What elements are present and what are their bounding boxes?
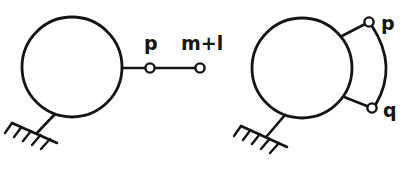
diagram-figure: p m+l	[0, 0, 414, 184]
diagram-canvas: p m+l	[0, 0, 414, 184]
joint-m-plus-l	[195, 63, 204, 72]
main-body-circle-left	[22, 17, 122, 117]
left-diagram: p m+l	[5, 17, 223, 149]
main-body-circle-right	[252, 18, 352, 118]
joint-p-right	[364, 17, 373, 26]
right-diagram: p q	[234, 12, 397, 153]
joint-q-label-right: q	[383, 99, 397, 121]
ground-support-left	[5, 114, 57, 149]
ground-support-right	[234, 115, 287, 153]
arc-link-p-to-q	[372, 26, 386, 104]
joint-p-label-left: p	[144, 32, 158, 54]
ground-stem-right	[267, 115, 285, 136]
ground-stem-left	[37, 114, 55, 133]
joint-p-label-right: p	[381, 12, 395, 34]
joint-m-plus-l-label: m+l	[181, 32, 223, 54]
joint-p-left	[145, 63, 154, 72]
joint-q-right	[367, 103, 376, 112]
